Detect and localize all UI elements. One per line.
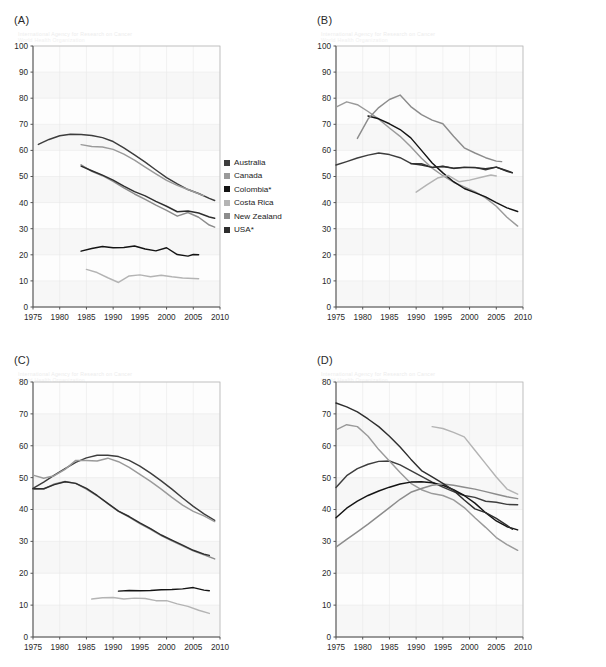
panel-c: (C) International Agency for Research on… xyxy=(0,340,303,667)
plot-band xyxy=(33,605,220,637)
panel-c-chart-svg: 0102030405060708019751980198519901995200… xyxy=(0,340,303,667)
y-tick-label: 70 xyxy=(322,120,332,129)
panel-b-chart-svg: 0102030405060708090100197519801985199019… xyxy=(303,0,606,333)
x-tick-label: 1990 xyxy=(407,643,426,652)
plot-band xyxy=(336,124,523,150)
plot-band xyxy=(33,281,220,307)
y-tick-label: 80 xyxy=(19,94,29,103)
plot-band xyxy=(336,281,523,307)
y-tick-label: 60 xyxy=(19,442,29,451)
plot-band xyxy=(336,414,523,446)
y-tick-label: 30 xyxy=(19,537,29,546)
x-tick-label: 1985 xyxy=(380,313,399,322)
legend-label: Canada xyxy=(234,169,262,182)
y-tick-label: 90 xyxy=(322,68,332,77)
y-tick-label: 40 xyxy=(322,199,332,208)
legend-item: Australia xyxy=(224,156,282,169)
y-tick-label: 60 xyxy=(322,442,332,451)
y-tick-label: 70 xyxy=(19,410,29,419)
y-tick-label: 80 xyxy=(322,94,332,103)
y-tick-label: 100 xyxy=(14,42,28,51)
plot-band xyxy=(336,229,523,255)
figure-sheet: (A) International Agency for Research on… xyxy=(0,0,606,667)
legend-swatch-icon xyxy=(224,227,230,233)
y-tick-label: 10 xyxy=(19,277,29,286)
y-tick-label: 0 xyxy=(326,303,331,312)
y-tick-label: 70 xyxy=(19,120,29,129)
x-tick-label: 2000 xyxy=(157,643,176,652)
x-tick-label: 1985 xyxy=(77,313,96,322)
y-tick-label: 10 xyxy=(322,601,332,610)
legend-label: Colombia* xyxy=(234,183,271,196)
legend-item: Costa Rica xyxy=(224,196,282,209)
y-tick-label: 30 xyxy=(322,225,332,234)
panel-b-plot: 0102030405060708090100197519801985199019… xyxy=(303,0,606,333)
y-tick-label: 50 xyxy=(19,172,29,181)
y-tick-label: 80 xyxy=(322,378,332,387)
x-tick-label: 1985 xyxy=(380,643,399,652)
legend-label: Australia xyxy=(234,156,266,169)
x-tick-label: 2010 xyxy=(211,313,230,322)
y-tick-label: 40 xyxy=(322,505,332,514)
x-tick-label: 1985 xyxy=(77,643,96,652)
panel-c-plot: 0102030405060708019751980198519901995200… xyxy=(0,340,303,667)
plot-band xyxy=(336,605,523,637)
x-tick-label: 2005 xyxy=(487,313,506,322)
panel-a-legend: AustraliaCanadaColombia*Costa RicaNew Ze… xyxy=(224,156,282,236)
x-tick-label: 1975 xyxy=(327,313,346,322)
legend-label: Costa Rica xyxy=(234,196,274,209)
y-tick-label: 70 xyxy=(322,410,332,419)
y-tick-label: 10 xyxy=(322,277,332,286)
legend-item: Canada xyxy=(224,169,282,182)
x-tick-label: 2000 xyxy=(460,313,479,322)
y-tick-label: 40 xyxy=(19,505,29,514)
panel-d: (D) International Agency for Research on… xyxy=(303,340,606,667)
x-tick-label: 1980 xyxy=(51,313,70,322)
legend-swatch-icon xyxy=(224,186,230,192)
x-tick-label: 1975 xyxy=(24,313,43,322)
plot-band xyxy=(33,541,220,573)
x-tick-label: 1995 xyxy=(131,313,150,322)
x-tick-label: 1995 xyxy=(131,643,150,652)
x-tick-label: 1980 xyxy=(51,643,70,652)
y-tick-label: 60 xyxy=(19,146,29,155)
legend-item: New Zealand xyxy=(224,210,282,223)
plot-band xyxy=(33,72,220,98)
legend-label: USA* xyxy=(234,223,254,236)
x-tick-label: 1975 xyxy=(24,643,43,652)
y-tick-label: 90 xyxy=(19,68,29,77)
panel-b: (B) International Agency for Research on… xyxy=(303,0,606,333)
legend-item: Colombia* xyxy=(224,183,282,196)
x-tick-label: 1990 xyxy=(407,313,426,322)
y-tick-label: 0 xyxy=(326,633,331,642)
x-tick-label: 2000 xyxy=(460,643,479,652)
legend-swatch-icon xyxy=(224,173,230,179)
x-tick-label: 2010 xyxy=(514,643,533,652)
x-tick-label: 2005 xyxy=(184,643,203,652)
y-tick-label: 20 xyxy=(322,569,332,578)
panel-d-chart-svg: 0102030405060708019751980198519901995200… xyxy=(303,340,606,667)
legend-swatch-icon xyxy=(224,213,230,219)
x-tick-label: 2010 xyxy=(211,643,230,652)
y-tick-label: 50 xyxy=(19,474,29,483)
panel-d-plot: 0102030405060708019751980198519901995200… xyxy=(303,340,606,667)
x-tick-label: 1980 xyxy=(354,313,373,322)
legend-label: New Zealand xyxy=(234,210,282,223)
plot-band xyxy=(33,414,220,446)
plot-band xyxy=(33,124,220,150)
x-tick-label: 2005 xyxy=(487,643,506,652)
plot-band xyxy=(336,72,523,98)
x-tick-label: 2010 xyxy=(514,313,533,322)
x-tick-label: 1975 xyxy=(327,643,346,652)
plot-band xyxy=(33,229,220,255)
panel-a: (A) International Agency for Research on… xyxy=(0,0,303,333)
x-tick-label: 1990 xyxy=(104,313,123,322)
legend-item: USA* xyxy=(224,223,282,236)
x-tick-label: 2005 xyxy=(184,313,203,322)
y-tick-label: 0 xyxy=(23,303,28,312)
y-tick-label: 0 xyxy=(23,633,28,642)
y-tick-label: 80 xyxy=(19,378,29,387)
y-tick-label: 30 xyxy=(19,225,29,234)
plot-band xyxy=(336,541,523,573)
plot-band xyxy=(336,177,523,203)
